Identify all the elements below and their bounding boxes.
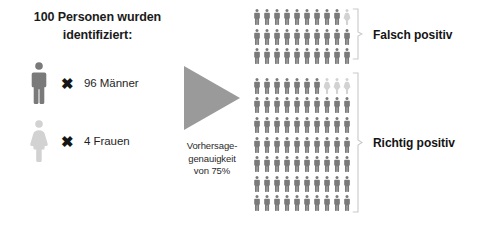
- arrow-caption-line-2: genauigkeit: [176, 153, 248, 166]
- grid-male-person-icon: [322, 154, 332, 174]
- page-title: 100 Personen wurden identifiziert:: [10, 9, 185, 45]
- grid-male-person-icon: [282, 76, 292, 96]
- grid-male-person-icon: [252, 174, 262, 194]
- grid-female-person-icon: [322, 76, 332, 96]
- grid-male-person-icon: [272, 46, 282, 66]
- grid-male-person-icon: [262, 135, 272, 155]
- grid-male-person-icon: [312, 27, 322, 47]
- grid-row: [252, 95, 352, 115]
- grid-male-person-icon: [332, 154, 342, 174]
- legend-label-male: 96 Männer: [84, 77, 139, 89]
- female-person-icon: [26, 119, 52, 163]
- grid-male-person-icon: [272, 115, 282, 135]
- grid-male-person-icon: [252, 115, 262, 135]
- grid-male-person-icon: [292, 154, 302, 174]
- grid-male-person-icon: [332, 135, 342, 155]
- grid-male-person-icon: [282, 115, 292, 135]
- grid-row: [252, 154, 352, 174]
- grid-male-person-icon: [252, 193, 262, 213]
- grid-male-person-icon: [262, 7, 272, 27]
- grid-male-person-icon: [292, 27, 302, 47]
- grid-male-person-icon: [272, 174, 282, 194]
- infographic-canvas: 100 Personen wurden identifiziert: ✖ 96 …: [0, 0, 487, 225]
- grid-row: [252, 27, 352, 47]
- grid-row: [252, 135, 352, 155]
- grid-row: [252, 193, 352, 213]
- arrow-caption-line-3: von 75%: [176, 165, 248, 178]
- grid-male-person-icon: [322, 95, 332, 115]
- grid-row: [252, 46, 352, 66]
- grid-male-person-icon: [302, 76, 312, 96]
- grid-male-person-icon: [292, 7, 302, 27]
- grid-male-person-icon: [292, 193, 302, 213]
- multiply-symbol-male: ✖: [61, 76, 74, 91]
- grid-male-person-icon: [312, 135, 322, 155]
- grid-male-person-icon: [322, 174, 332, 194]
- grid-male-person-icon: [272, 27, 282, 47]
- grid-male-person-icon: [332, 193, 342, 213]
- grid-male-person-icon: [262, 76, 272, 96]
- grid-male-person-icon: [292, 95, 302, 115]
- grid-male-person-icon: [282, 27, 292, 47]
- grid-male-person-icon: [322, 7, 332, 27]
- grid-male-person-icon: [262, 174, 272, 194]
- grid-male-person-icon: [312, 46, 322, 66]
- grid-male-person-icon: [272, 135, 282, 155]
- bracket-falsch-positiv: [352, 8, 363, 60]
- grid-row: [252, 115, 352, 135]
- grid-male-person-icon: [322, 27, 332, 47]
- grid-male-person-icon: [252, 7, 262, 27]
- grid-male-person-icon: [262, 115, 272, 135]
- grid-male-person-icon: [262, 27, 272, 47]
- male-person-icon: [26, 61, 52, 105]
- grid-male-person-icon: [252, 46, 262, 66]
- grid-male-person-icon: [312, 174, 322, 194]
- person-icon-grid: [252, 7, 352, 213]
- grid-male-person-icon: [282, 46, 292, 66]
- grid-male-person-icon: [342, 135, 352, 155]
- grid-male-person-icon: [292, 115, 302, 135]
- label-falsch-positiv: Falsch positiv: [373, 28, 452, 42]
- legend-row-female: ✖ 4 Frauen: [26, 118, 130, 164]
- grid-male-person-icon: [342, 115, 352, 135]
- grid-male-person-icon: [312, 7, 322, 27]
- grid-row: [252, 76, 352, 96]
- grid-female-person-icon: [332, 76, 342, 96]
- grid-male-person-icon: [342, 46, 352, 66]
- prediction-arrow-block: Vorhersage- genauigkeit von 75%: [176, 66, 248, 178]
- grid-male-person-icon: [252, 95, 262, 115]
- grid-male-person-icon: [252, 135, 262, 155]
- grid-male-person-icon: [322, 193, 332, 213]
- grid-male-person-icon: [282, 135, 292, 155]
- grid-male-person-icon: [342, 174, 352, 194]
- arrow-caption-line-1: Vorhersage-: [176, 140, 248, 153]
- grid-male-person-icon: [292, 46, 302, 66]
- grid-male-person-icon: [252, 76, 262, 96]
- grid-female-person-icon: [342, 7, 352, 27]
- grid-male-person-icon: [272, 95, 282, 115]
- grid-male-person-icon: [302, 7, 312, 27]
- grid-male-person-icon: [262, 154, 272, 174]
- grid-male-person-icon: [332, 174, 342, 194]
- grid-male-person-icon: [332, 115, 342, 135]
- grid-male-person-icon: [322, 115, 332, 135]
- bracket-richtig-positiv: [352, 72, 363, 213]
- grid-male-person-icon: [262, 46, 272, 66]
- grid-male-person-icon: [282, 95, 292, 115]
- grid-male-person-icon: [342, 95, 352, 115]
- grid-male-person-icon: [322, 46, 332, 66]
- grid-male-person-icon: [282, 7, 292, 27]
- grid-male-person-icon: [312, 76, 322, 96]
- grid-male-person-icon: [252, 154, 262, 174]
- grid-male-person-icon: [262, 193, 272, 213]
- arrow-caption: Vorhersage- genauigkeit von 75%: [176, 140, 248, 178]
- grid-male-person-icon: [302, 46, 312, 66]
- grid-male-person-icon: [332, 7, 342, 27]
- legend-row-male: ✖ 96 Männer: [26, 60, 139, 106]
- grid-male-person-icon: [282, 193, 292, 213]
- group-separator: [252, 66, 352, 76]
- grid-male-person-icon: [292, 174, 302, 194]
- icon-group-falsch-positiv: [252, 7, 352, 66]
- grid-male-person-icon: [282, 174, 292, 194]
- grid-male-person-icon: [282, 154, 292, 174]
